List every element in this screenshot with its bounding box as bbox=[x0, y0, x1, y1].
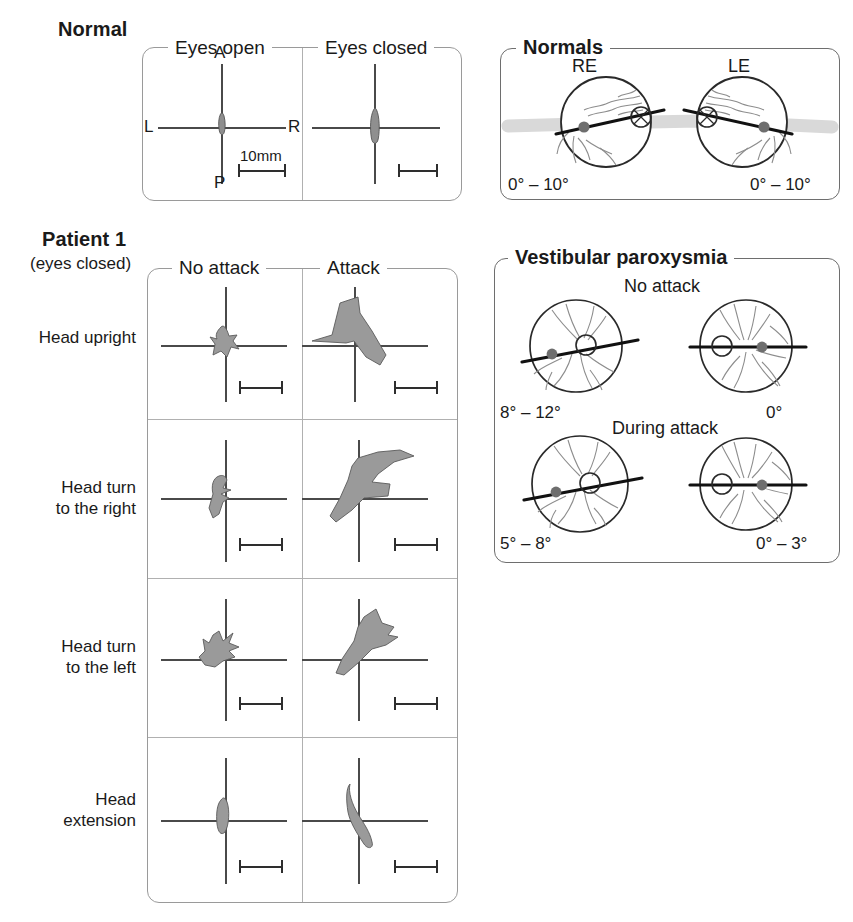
sway-area-blob bbox=[302, 48, 462, 200]
sway-plot-attack-head-extension bbox=[302, 738, 457, 902]
sway-plot-attack-head-turn-right bbox=[302, 420, 457, 578]
sway-area-blob bbox=[302, 579, 457, 737]
sway-area-blob bbox=[302, 269, 457, 419]
normals-legend: Normals bbox=[516, 37, 610, 57]
vestibular-paroxysmia-legend: Vestibular paroxysmia bbox=[508, 247, 734, 267]
sway-area-blob bbox=[147, 579, 302, 737]
sway-area-blob bbox=[302, 738, 457, 902]
patient-section-title: Patient 1 bbox=[42, 228, 126, 251]
fovea-marker bbox=[547, 349, 558, 360]
fovea-marker bbox=[578, 121, 589, 132]
sway-area-blob bbox=[147, 420, 302, 578]
sway-plot-attack-head-turn-left bbox=[302, 579, 457, 737]
vp-during-attack-angle-le: 0° – 3° bbox=[756, 534, 807, 554]
vp-no-attack-fundus-drawing bbox=[494, 296, 840, 408]
vp-during-attack-angle-re: 5° – 8° bbox=[500, 534, 551, 554]
fovea-marker bbox=[757, 342, 768, 353]
sway-plot-no-attack-head-turn-right bbox=[147, 420, 302, 578]
fovea-marker bbox=[757, 480, 768, 491]
sway-plot-no-attack-head-turn-left bbox=[147, 579, 302, 737]
patient-section-subtitle: (eyes closed) bbox=[30, 254, 131, 274]
fovea-marker bbox=[758, 121, 769, 132]
vp-during-attack-fundus-drawing bbox=[494, 428, 840, 540]
row-label-head-extension: Head extension bbox=[0, 790, 136, 831]
torsion-angle-le: 0° – 10° bbox=[750, 175, 811, 195]
sway-plot-no-attack-head-extension bbox=[147, 738, 302, 902]
row-label-line1: Head turn bbox=[0, 478, 136, 499]
sway-area-blob bbox=[142, 48, 302, 200]
fovea-marker bbox=[551, 487, 562, 498]
sway-plot-no-attack-head-upright bbox=[147, 269, 302, 419]
torsion-angle-re: 0° – 10° bbox=[508, 175, 569, 195]
fundus-right-eye bbox=[556, 77, 664, 167]
normal-section-title: Normal bbox=[58, 18, 128, 41]
row-label-line1: Head bbox=[0, 790, 136, 811]
row-label-line1: Head turn bbox=[0, 637, 136, 658]
fundus-right-eye-during-attack bbox=[524, 436, 642, 532]
sway-area-blob bbox=[147, 269, 302, 419]
fundus-left-eye-no-attack bbox=[690, 300, 806, 392]
fundus-right-eye-no-attack bbox=[522, 300, 638, 392]
row-label-line2: to the left bbox=[0, 658, 136, 679]
caption-no-attack: No attack bbox=[624, 276, 700, 297]
sway-area-blob bbox=[302, 420, 457, 578]
sway-plot-normal-eyes-open: A P L R 10mm bbox=[142, 48, 302, 200]
sway-plot-normal-eyes-closed bbox=[302, 48, 462, 200]
row-label-head-upright: Head upright bbox=[0, 328, 136, 349]
row-label-line2: extension bbox=[0, 811, 136, 832]
row-label-line1: Head upright bbox=[0, 328, 136, 349]
scale-bar-caption: 10mm bbox=[240, 147, 282, 164]
fundus-left-eye bbox=[684, 77, 792, 167]
vp-no-attack-angle-le: 0° bbox=[766, 403, 782, 423]
fundus-left-eye-during-attack bbox=[690, 438, 806, 530]
row-label-head-turn-right: Head turn to the right bbox=[0, 478, 136, 519]
normals-fundus-drawing bbox=[500, 70, 840, 180]
row-label-line2: to the right bbox=[0, 499, 136, 520]
sway-area-blob bbox=[147, 738, 302, 902]
row-label-head-turn-left: Head turn to the left bbox=[0, 637, 136, 678]
sway-plot-attack-head-upright bbox=[302, 269, 457, 419]
vp-no-attack-angle-re: 8° – 12° bbox=[500, 403, 561, 423]
